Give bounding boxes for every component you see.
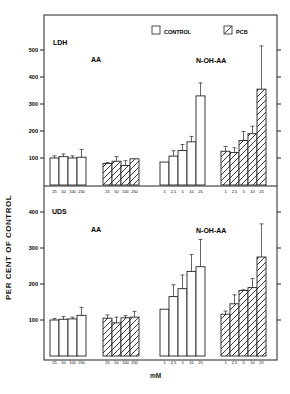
bar [178,289,187,356]
y-axis-label: PER CENT OF CONTROL [4,195,13,300]
x-tick-label: 5 [242,360,245,365]
bar [221,314,230,356]
legend: CONTROL PCB [152,26,248,35]
bar [103,318,112,356]
bar [178,150,187,185]
x-tick-label: 250 [78,189,85,194]
bar [239,140,248,185]
x-tick-label: 2.5 [171,189,177,194]
x-tick-label: 250 [78,360,85,365]
y-tick-label: 400 [29,209,38,215]
bar [68,158,77,185]
x-axis-label: mM [150,372,161,379]
bar [50,320,59,356]
bar [59,157,68,185]
bar [239,290,248,356]
figure: 1002003004005002550100250255010025012.55… [0,0,290,394]
group-label-aa-ldh: AA [91,56,101,63]
x-tick-label: 25 [52,189,57,194]
x-tick-label: 10 [250,360,255,365]
y-tick-label: 500 [29,47,38,53]
x-tick-label: 5 [242,189,245,194]
y-tick-label: 100 [29,317,38,323]
bar [169,297,178,356]
x-tick-label: 250 [131,360,138,365]
x-tick-label: 25 [105,189,110,194]
x-tick-label: 50 [114,189,119,194]
bar [196,96,205,185]
x-tick-label: 10 [189,189,194,194]
x-tick-label: 25 [259,360,264,365]
x-tick-label: 50 [114,360,119,365]
x-tick-label: 1 [163,189,166,194]
x-tick-label: 25 [198,189,203,194]
bar [103,163,112,185]
x-tick-label: 100 [122,360,129,365]
panel-title-uds: UDS [52,208,67,215]
bar [130,159,139,185]
x-tick-label: 5 [181,360,184,365]
bar [187,142,196,185]
bar [248,288,257,356]
x-tick-label: 100 [69,189,76,194]
group-label-aa-uds: AA [91,226,101,233]
x-tick-label: 50 [61,360,66,365]
x-tick-label: 1 [224,360,227,365]
x-tick-label: 5 [181,189,184,194]
bar [221,151,230,185]
bar [230,304,239,356]
y-tick-label: 100 [29,155,38,161]
bar [112,323,121,356]
bar [59,319,68,356]
bar [257,257,266,356]
x-tick-label: 25 [198,360,203,365]
bar [121,318,130,356]
bar [68,319,77,356]
x-tick-label: 10 [250,189,255,194]
group-label-nohaa-uds: N-OH-AA [196,227,226,234]
y-tick-label: 200 [29,281,38,287]
x-tick-label: 25 [259,189,264,194]
x-tick-label: 25 [52,360,57,365]
x-tick-label: 1 [163,360,166,365]
x-tick-label: 100 [122,189,129,194]
legend-pcb-label: PCB [236,29,248,35]
legend-control-swatch [152,26,160,34]
bar [112,161,121,185]
bar [230,153,239,185]
x-tick-label: 2.5 [171,360,177,365]
y-tick-label: 200 [29,128,38,134]
panel-title-ldh: LDH [53,39,67,46]
bar [196,267,205,356]
x-tick-label: 25 [105,360,110,365]
bar [248,134,257,185]
bar [77,315,86,356]
x-tick-label: 250 [131,189,138,194]
y-tick-label: 400 [29,74,38,80]
x-tick-label: 10 [189,360,194,365]
bar [160,309,169,356]
group-label-nohaa-ldh: N-OH-AA [196,57,226,64]
x-tick-label: 2.5 [232,360,238,365]
x-tick-label: 2.5 [232,189,238,194]
bar [130,317,139,356]
bar [160,162,169,185]
bar [257,89,266,185]
bar [121,166,130,185]
x-tick-label: 50 [61,189,66,194]
bar [50,158,59,185]
bar [77,157,86,185]
bar [169,156,178,185]
y-tick-label: 300 [29,101,38,107]
x-tick-label: 100 [69,360,76,365]
bar [187,271,196,356]
x-tick-label: 1 [224,189,227,194]
legend-control-label: CONTROL [164,29,192,35]
y-tick-label: 300 [29,245,38,251]
